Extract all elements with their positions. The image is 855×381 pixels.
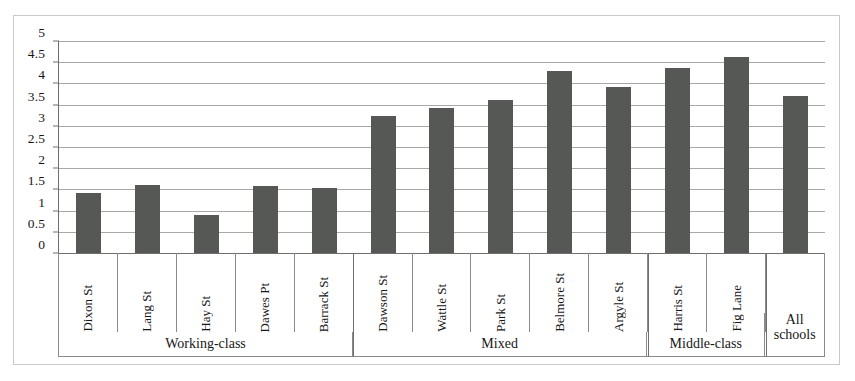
bar[interactable] [194, 215, 219, 253]
y-axis-tick-label: 0 [14, 238, 45, 252]
bar-cell [59, 41, 118, 253]
category-label-cell: Lang St [117, 253, 176, 332]
y-axis-tick-label: 3.5 [14, 90, 45, 104]
bar[interactable] [371, 116, 396, 253]
category-label: Harris St [671, 284, 684, 332]
category-label-cell: Hay St [176, 253, 235, 332]
group-label: schools [774, 328, 816, 343]
bar[interactable] [76, 193, 101, 253]
group-divider [648, 253, 649, 357]
group-divider [353, 253, 354, 357]
bar[interactable] [606, 87, 631, 253]
category-label-cell: Argyle St [588, 253, 647, 332]
y-axis-tick-label: 1 [14, 196, 45, 210]
group-label-band: Working-classMixedMiddle-classAllschools [58, 332, 825, 357]
bar[interactable] [547, 71, 572, 253]
bar-cell [589, 41, 648, 253]
category-label-cell: Harris St [647, 253, 706, 332]
bar-cell [471, 41, 530, 253]
bar[interactable] [253, 186, 278, 253]
y-axis-labels: 54.543.532.521.510.50 [14, 33, 45, 245]
bar[interactable] [724, 57, 749, 253]
bar-cell [177, 41, 236, 253]
bar-cell [530, 41, 589, 253]
category-label-cell: Dawes Pt [235, 253, 294, 332]
bar[interactable] [135, 185, 160, 253]
group-label-cell: Allschools [764, 313, 824, 357]
category-label: Hay St [199, 295, 212, 332]
bar-cell [648, 41, 707, 253]
y-axis-tick-label: 4.5 [14, 47, 45, 61]
y-axis-tick-label: 4 [14, 69, 45, 83]
category-label: Dawes Pt [258, 282, 271, 332]
y-axis-tick-label: 2 [14, 153, 45, 167]
category-label-cell: Belmore St [529, 253, 588, 332]
bar[interactable] [783, 96, 808, 253]
bar[interactable] [488, 100, 513, 253]
category-label-cell: Barrack St [294, 253, 353, 332]
bar-cell [354, 41, 413, 253]
bar-cell [766, 41, 825, 253]
bar-cell [236, 41, 295, 253]
category-label-cell: Wattle St [412, 253, 471, 332]
group-label: Mixed [481, 336, 518, 352]
bar[interactable] [429, 108, 454, 253]
category-label: Belmore St [553, 272, 566, 332]
chart-figure: 54.543.532.521.510.50 Dixon StLang StHay… [13, 15, 840, 365]
category-label: Lang St [140, 290, 153, 332]
bar-cell [295, 41, 354, 253]
category-label: Dixon St [81, 284, 94, 332]
bar[interactable] [312, 188, 337, 253]
category-label-cell: Fig Lane [706, 253, 765, 332]
category-label: Barrack St [317, 276, 330, 332]
y-axis-tick-label: 0.5 [14, 217, 45, 231]
y-axis-tick-label: 2.5 [14, 132, 45, 146]
y-axis-tick-label: 1.5 [14, 175, 45, 189]
bar-series [59, 41, 825, 253]
y-axis-tick-label: 5 [14, 26, 45, 40]
bar[interactable] [665, 68, 690, 253]
category-label-band: Dixon StLang StHay StDawes PtBarrack StD… [58, 253, 825, 332]
category-label: Fig Lane [730, 284, 743, 332]
category-label: Wattle St [435, 283, 448, 332]
group-label: Working-class [165, 336, 246, 352]
category-label: Argyle St [612, 281, 625, 332]
group-divider [766, 253, 767, 357]
group-label-cell: Working-class [59, 332, 352, 356]
group-label-cell: Middle-class [646, 332, 764, 356]
category-label-cell: Park St [470, 253, 529, 332]
category-label: Dawson St [376, 274, 389, 332]
category-label-cell: Dixon St [58, 253, 117, 332]
bar-cell [118, 41, 177, 253]
category-label: Park St [494, 293, 507, 332]
category-label-cell: Dawson St [353, 253, 412, 332]
bar-cell [707, 41, 766, 253]
y-axis-tick-label: 3 [14, 111, 45, 125]
group-label: Middle-class [670, 336, 742, 352]
group-label-cell: Mixed [352, 332, 646, 356]
plot-area [58, 41, 825, 253]
group-label: All [786, 313, 804, 328]
bar-cell [413, 41, 472, 253]
